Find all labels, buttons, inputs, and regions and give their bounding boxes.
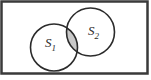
label-s1: S1	[45, 36, 56, 49]
venn-diagram-figure: S1 S2	[0, 0, 151, 80]
venn-diagram-canvas	[0, 0, 151, 80]
label-s1-base: S	[45, 35, 52, 50]
label-s2-subscript: 2	[95, 31, 100, 41]
label-s2-base: S	[88, 23, 95, 38]
label-s1-subscript: 1	[52, 43, 57, 53]
label-s2: S2	[88, 24, 99, 37]
